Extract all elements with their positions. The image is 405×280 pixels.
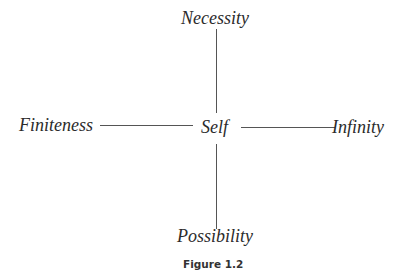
edge-self-infinity xyxy=(241,127,335,128)
node-infinity: Infinity xyxy=(332,117,384,137)
edge-self-necessity xyxy=(216,29,217,113)
node-finiteness: Finiteness xyxy=(19,115,93,135)
edge-self-possibility xyxy=(216,144,217,229)
edge-self-finiteness xyxy=(100,125,193,126)
node-necessity: Necessity xyxy=(181,8,249,28)
figure-caption: Figure 1.2 xyxy=(183,258,243,270)
node-possibility: Possibility xyxy=(177,226,253,246)
node-self: Self xyxy=(201,117,228,137)
